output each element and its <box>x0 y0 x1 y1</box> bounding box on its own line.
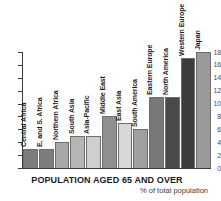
bar-category-label: Asia-Pacific <box>83 95 90 134</box>
bar-slot: Japan <box>196 52 211 168</box>
y-tick-mark <box>18 65 22 66</box>
bar <box>55 142 70 168</box>
y-tick-mark <box>18 52 22 53</box>
bar <box>102 116 117 168</box>
bar-category-label: Western Europe <box>177 4 184 56</box>
bar-category-label: Japan <box>193 30 200 50</box>
bar <box>39 149 54 168</box>
bar <box>165 97 180 168</box>
bar-category-label: Northern Africa <box>51 91 58 141</box>
bar-category-label: Eastern Europe <box>146 45 153 95</box>
bar-series: Central AfricaE. and S. AfricaNorthern A… <box>23 52 211 168</box>
bar <box>196 52 211 168</box>
bar-slot: Western Europe <box>181 52 196 168</box>
bar <box>23 149 38 168</box>
bar-category-label: South America <box>130 80 137 128</box>
bar-slot: North America <box>165 52 180 168</box>
bar <box>133 129 148 168</box>
y-tick-mark <box>18 91 22 92</box>
bar <box>149 97 164 168</box>
bar-category-label: Central Africa <box>20 102 27 146</box>
y-tick-mark <box>18 168 22 169</box>
chart-subtitle: % of total population <box>0 187 214 195</box>
bar-category-label: Middle East <box>99 77 106 115</box>
bar-chart: 024681012141618 Central AfricaE. and S. … <box>0 0 221 201</box>
bar <box>181 58 196 168</box>
y-tick-mark <box>18 155 22 156</box>
y-tick-mark <box>18 78 22 79</box>
bar-category-label: North America <box>162 48 169 95</box>
bar <box>86 136 101 168</box>
bar-category-label: East Asia <box>114 91 121 121</box>
bar-category-label: South Asia <box>67 98 74 133</box>
bar <box>70 136 85 168</box>
bar-category-label: E. and S. Africa <box>36 97 43 147</box>
bar <box>118 123 133 168</box>
chart-title: POPULATION AGED 65 AND OVER <box>0 175 214 185</box>
x-axis-line <box>22 168 211 169</box>
